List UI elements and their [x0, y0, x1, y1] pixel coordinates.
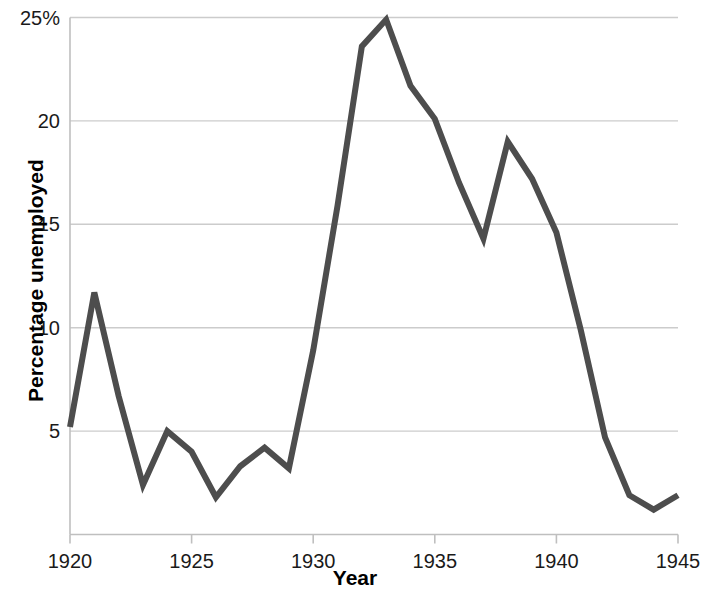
x-tick-label: 1940	[511, 551, 601, 571]
data-series-line	[70, 20, 678, 510]
x-tick-label: 1945	[633, 551, 704, 571]
axis-lines	[70, 18, 678, 535]
y-tick-label: 25%	[0, 8, 60, 28]
y-tick-label: 5	[0, 421, 60, 441]
x-tick-label: 1920	[25, 551, 115, 571]
x-axis-ticks	[70, 535, 678, 544]
y-tick-label: 20	[0, 111, 60, 131]
series-polyline	[70, 20, 678, 510]
y-axis-title: Percentage unemployed	[24, 162, 48, 402]
x-axis-title: Year	[255, 566, 455, 590]
x-tick-label: 1925	[147, 551, 237, 571]
